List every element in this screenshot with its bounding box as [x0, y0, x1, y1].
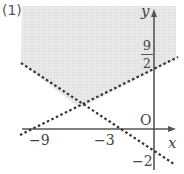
frac-denominator: 2 [143, 57, 151, 70]
y-tick-minus-2: −2 [132, 154, 153, 168]
problem-label: (1) [2, 3, 22, 17]
origin-label: O [140, 113, 151, 127]
x-axis-label: x [168, 136, 176, 151]
x-tick-minus-3: −3 [94, 133, 115, 147]
y-axis-label: y [141, 4, 149, 19]
y-tick-nine-halves: 9 2 [141, 39, 153, 70]
x-tick-minus-9: −9 [29, 133, 50, 147]
inequality-graph [0, 0, 184, 174]
frac-bar [141, 54, 153, 55]
frac-numerator: 9 [143, 39, 151, 52]
x-axis-arrow-icon [168, 126, 176, 132]
